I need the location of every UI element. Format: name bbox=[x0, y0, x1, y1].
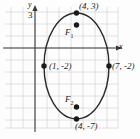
point-focus-2 bbox=[74, 104, 79, 109]
point-left-covertex bbox=[41, 63, 46, 68]
label-top-vertex: (4, 3) bbox=[79, 2, 99, 11]
label-right-covertex: (7, -2) bbox=[112, 62, 135, 71]
point-focus-1 bbox=[74, 22, 79, 27]
label-focus-2: F2 bbox=[65, 95, 74, 106]
y-axis-label: y bbox=[28, 1, 32, 9]
focus-1-subscript: 1 bbox=[71, 33, 74, 39]
point-top-vertex bbox=[74, 10, 79, 15]
ellipse-figure: 3 y x (4, 3) (4, -7) (1, -2) (7, -2) F1 … bbox=[0, 0, 140, 139]
y-axis-arrowhead bbox=[32, 5, 37, 11]
label-focus-1: F1 bbox=[65, 28, 74, 39]
x-axis-label: x bbox=[119, 43, 123, 51]
y-tick-label-3: 3 bbox=[28, 11, 33, 20]
point-right-covertex bbox=[106, 63, 111, 68]
label-left-covertex: (1, -2) bbox=[49, 62, 72, 71]
focus-2-subscript: 2 bbox=[71, 100, 74, 106]
label-bottom-vertex: (4, -7) bbox=[75, 122, 98, 131]
